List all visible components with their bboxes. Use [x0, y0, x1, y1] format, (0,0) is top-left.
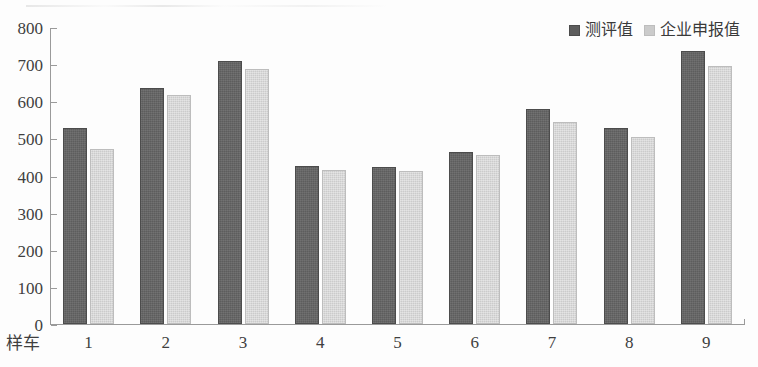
plot-area: 0100200300400500600700800 [50, 28, 745, 325]
bar-measured [681, 51, 705, 324]
x-axis-tick-label: 8 [591, 330, 668, 356]
x-axis-tick-label: 3 [204, 330, 281, 356]
x-axis-line [50, 324, 745, 325]
bar-groups [50, 28, 745, 324]
bar-measured [449, 152, 473, 324]
scan-artifact [26, 5, 386, 7]
bar-measured [218, 61, 242, 324]
bar-group [513, 28, 590, 324]
x-axis-tick-label: 6 [436, 330, 513, 356]
bar-measured [140, 88, 164, 324]
bar-group [591, 28, 668, 324]
bar-declared [553, 122, 577, 324]
y-axis-tick-label: 100 [18, 279, 44, 296]
x-axis-tick-label: 1 [50, 330, 127, 356]
x-axis-tick-label: 2 [127, 330, 204, 356]
bar-measured [604, 128, 628, 324]
bar-declared [631, 137, 655, 324]
bar-measured [372, 167, 396, 324]
bar-declared [90, 149, 114, 324]
bar-group [359, 28, 436, 324]
y-axis-tick-label: 300 [18, 205, 44, 222]
bar-measured [295, 166, 319, 324]
x-axis-labels: 123456789 [50, 330, 745, 356]
bar-measured [526, 109, 550, 324]
x-axis-tick-label: 9 [668, 330, 745, 356]
bar-declared [476, 155, 500, 324]
bar-declared [245, 69, 269, 324]
x-axis-title: 样车 [6, 330, 40, 356]
bar-declared [708, 66, 732, 324]
y-axis-tick-label: 500 [18, 131, 44, 148]
bar-group [127, 28, 204, 324]
bar-group [282, 28, 359, 324]
bar-measured [63, 128, 87, 324]
y-axis-tick-label: 200 [18, 242, 44, 259]
y-axis-tick-mark [51, 325, 57, 326]
bar-declared [167, 95, 191, 324]
y-axis-tick-label: 400 [18, 168, 44, 185]
bar-chart-figure: 测评值 企业申报值 0100200300400500600700800 样车 1… [0, 0, 758, 367]
bar-group [50, 28, 127, 324]
y-axis-tick-label: 700 [18, 57, 44, 74]
bar-group [436, 28, 513, 324]
bar-declared [399, 171, 423, 324]
x-axis-tick-label: 5 [359, 330, 436, 356]
bar-group [668, 28, 745, 324]
x-axis-tick-label: 7 [513, 330, 590, 356]
y-axis-tick-label: 600 [18, 94, 44, 111]
y-axis-tick-label: 800 [18, 20, 44, 37]
bar-group [204, 28, 281, 324]
bar-declared [322, 170, 346, 324]
x-axis-tick-label: 4 [282, 330, 359, 356]
